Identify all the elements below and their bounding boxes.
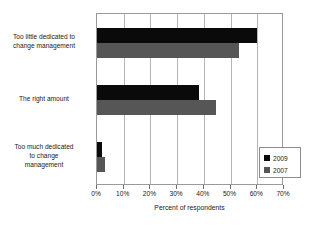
- legend-label-2007: 2007: [273, 167, 288, 174]
- plot-area: [96, 13, 283, 185]
- category-label-line: to change: [0, 152, 90, 161]
- x-tick: [203, 185, 204, 189]
- legend: 2009 2007: [259, 147, 301, 178]
- bar-2009-cat2: [97, 142, 102, 157]
- bar-2007-cat2: [97, 157, 105, 172]
- category-label-line: management: [0, 161, 90, 170]
- x-tick: [149, 185, 150, 189]
- x-tick-label: 10%: [108, 190, 138, 197]
- x-tick: [96, 185, 97, 189]
- x-tick: [256, 185, 257, 189]
- x-tick: [176, 185, 177, 189]
- legend-label-2009: 2009: [273, 155, 288, 162]
- legend-item-2007: 2007: [264, 164, 300, 176]
- category-label: The right amount: [0, 95, 90, 104]
- x-tick-label: 40%: [188, 190, 218, 197]
- bar-2007-cat1: [97, 100, 216, 115]
- bar-2007-cat0: [97, 43, 239, 58]
- x-tick-label: 0%: [81, 190, 111, 197]
- category-label-line: Too much dedicated: [0, 143, 90, 152]
- x-tick: [283, 185, 284, 189]
- x-tick: [123, 185, 124, 189]
- bar-2009-cat0: [97, 28, 257, 43]
- category-label: Too little dedicated tochange management: [0, 33, 90, 50]
- legend-swatch-icon-2009: [264, 155, 270, 161]
- x-tick-label: 50%: [215, 190, 245, 197]
- category-label-line: change management: [0, 42, 90, 51]
- x-axis-title: Percent of respondents: [96, 204, 283, 211]
- legend-item-2009: 2009: [264, 152, 300, 164]
- legend-swatch-icon-2007: [264, 167, 270, 173]
- x-tick-label: 20%: [134, 190, 164, 197]
- category-label-line: Too little dedicated to: [0, 33, 90, 42]
- x-tick-label: 60%: [241, 190, 271, 197]
- bar-2009-cat1: [97, 85, 199, 100]
- bar-chart: Too little dedicated tochange management…: [0, 0, 328, 227]
- category-label: Too much dedicatedto changemanagement: [0, 143, 90, 169]
- category-label-line: The right amount: [0, 95, 90, 104]
- x-tick-label: 30%: [161, 190, 191, 197]
- x-tick-label: 70%: [268, 190, 298, 197]
- x-tick: [230, 185, 231, 189]
